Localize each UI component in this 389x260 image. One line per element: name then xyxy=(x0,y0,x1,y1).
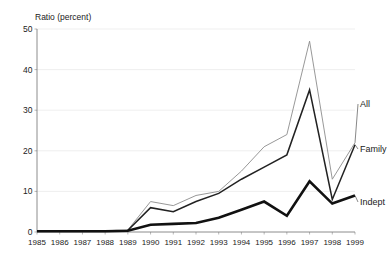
y-axis-title: Ratio (percent) xyxy=(35,12,91,22)
y-tick-label: 10 xyxy=(23,186,33,196)
line-chart: Ratio (percent) 01020304050 198519861987… xyxy=(0,0,389,260)
chart-background xyxy=(0,0,389,260)
y-tick-label: 50 xyxy=(23,24,33,34)
series-label-all: All xyxy=(360,99,370,109)
x-tick-label: 1987 xyxy=(74,238,92,247)
x-tick-label: 1998 xyxy=(323,238,341,247)
x-tick-label: 1986 xyxy=(51,238,69,247)
x-tick-label: 1988 xyxy=(96,238,114,247)
x-tick-label: 1997 xyxy=(301,238,319,247)
series-label-family: Family xyxy=(360,144,387,154)
y-tick-label: 40 xyxy=(23,65,33,75)
series-label-indept: Indept xyxy=(360,197,386,207)
x-tick-label: 1989 xyxy=(119,238,137,247)
chart-container: Ratio (percent) 01020304050 198519861987… xyxy=(0,0,389,260)
y-tick-label: 20 xyxy=(23,146,33,156)
x-tick-label: 1999 xyxy=(346,238,364,247)
x-tick-label: 1992 xyxy=(187,238,205,247)
x-tick-label: 1993 xyxy=(210,238,228,247)
x-tick-label: 1990 xyxy=(142,238,160,247)
x-tick-label: 1996 xyxy=(278,238,296,247)
x-tick-label: 1991 xyxy=(164,238,182,247)
y-tick-label: 0 xyxy=(28,227,33,237)
x-tick-label: 1985 xyxy=(28,238,46,247)
y-tick-label: 30 xyxy=(23,105,33,115)
x-axis-tick-labels: 1985198619871988198919901991199219931994… xyxy=(28,238,364,247)
x-tick-label: 1994 xyxy=(233,238,251,247)
x-tick-label: 1995 xyxy=(255,238,273,247)
